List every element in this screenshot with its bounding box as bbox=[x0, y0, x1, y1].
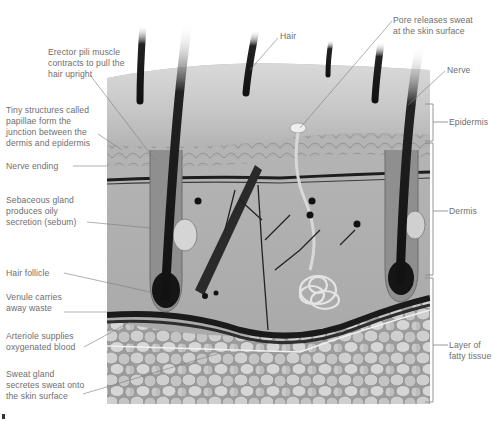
nerve-ending-label: Nerve ending bbox=[6, 161, 58, 172]
papillae-label: Tiny structures called papillae form the… bbox=[6, 105, 90, 149]
fatty-tissue-layer-label: Layer of fatty tissue bbox=[449, 340, 491, 362]
venule-label: Venule carries away waste bbox=[6, 292, 62, 314]
nerve-label: Nerve bbox=[447, 65, 470, 76]
corner-mark bbox=[2, 414, 5, 419]
epidermis-layer-label: Epidermis bbox=[449, 117, 488, 128]
dermis-layer-label: Dermis bbox=[449, 206, 477, 217]
sweat-gland-label: Sweat gland secretes sweat onto the skin… bbox=[6, 369, 84, 402]
arteriole-label: Arteriole supplies oxygenated blood bbox=[6, 331, 75, 353]
sebaceous-gland-label: Sebaceous gland produces oily secretion … bbox=[6, 195, 76, 228]
erector-pili-muscle-label: Erector pili muscle contracts to pull th… bbox=[48, 47, 125, 80]
hair-follicle-label: Hair follicle bbox=[6, 268, 49, 279]
hair-label: Hair bbox=[280, 31, 296, 42]
pore-label: Pore releases sweat at the skin surface bbox=[393, 15, 473, 37]
